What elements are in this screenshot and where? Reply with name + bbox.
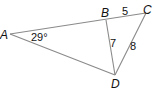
segment-ad <box>10 34 115 75</box>
vertex-label-c: C <box>143 3 152 17</box>
segment-bd-length: 7 <box>110 37 116 49</box>
vertex-label-a: A <box>0 28 8 42</box>
angle-a-measure: 29° <box>31 31 48 43</box>
segment-bc-length: 5 <box>122 5 128 17</box>
vertex-label-d: D <box>111 77 120 91</box>
segment-cd-length: 8 <box>130 40 136 52</box>
geometry-diagram: A B C D 29° 5 7 8 <box>0 0 157 96</box>
vertex-label-b: B <box>101 6 109 20</box>
